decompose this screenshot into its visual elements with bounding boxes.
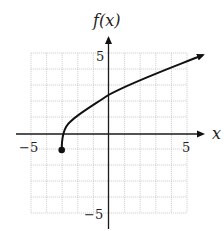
function-graph: f(x) x −5 5 5 −5 bbox=[0, 0, 224, 231]
y-tick-max: 5 bbox=[96, 49, 104, 64]
y-tick-min: −5 bbox=[84, 207, 103, 222]
x-tick-max: 5 bbox=[182, 140, 190, 155]
x-axis-title: x bbox=[212, 124, 221, 143]
x-tick-min: −5 bbox=[19, 140, 38, 155]
start-point bbox=[58, 147, 65, 154]
y-axis-title: f(x) bbox=[92, 11, 120, 30]
